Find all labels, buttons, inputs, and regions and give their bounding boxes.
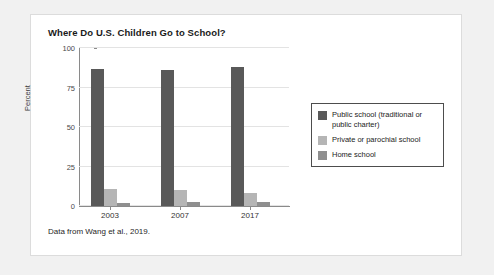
figure-card: Where Do U.S. Children Go to School? 025…: [30, 14, 462, 256]
y-tick-label: 25: [67, 162, 75, 171]
x-tick-label: 2017: [230, 211, 270, 220]
y-tick-label: 0: [71, 202, 75, 211]
x-tick-mark: [180, 207, 181, 210]
chart-title: Where Do U.S. Children Go to School?: [48, 27, 226, 38]
plot-area: [79, 48, 289, 206]
bar[interactable]: [187, 202, 200, 206]
chart-legend: Public school (traditional or public cha…: [311, 103, 444, 167]
x-tick-mark: [250, 207, 251, 210]
legend-item[interactable]: Public school (traditional or public cha…: [318, 110, 436, 130]
bar-group-2017: [231, 48, 270, 206]
legend-label: Public school (traditional or public cha…: [332, 110, 436, 130]
legend-label: Home school: [332, 150, 376, 160]
bar[interactable]: [231, 67, 244, 206]
legend-swatch-icon: [318, 111, 327, 120]
bar[interactable]: [91, 69, 104, 206]
legend-swatch-icon: [318, 136, 327, 145]
y-tick-label: 100: [62, 44, 75, 53]
x-tick-label: 2007: [160, 211, 200, 220]
y-axis-title: Percent: [23, 85, 32, 111]
bar[interactable]: [161, 70, 174, 206]
bar-group-2007: [161, 48, 200, 206]
bar[interactable]: [244, 193, 257, 206]
x-tick-mark: [110, 207, 111, 210]
bar[interactable]: [104, 189, 117, 206]
legend-item[interactable]: Home school: [318, 150, 436, 160]
y-tick-label: 50: [67, 123, 75, 132]
bar[interactable]: [257, 202, 270, 206]
legend-swatch-icon: [318, 151, 327, 160]
bar[interactable]: [117, 203, 130, 206]
bar-group-2003: [91, 48, 130, 206]
legend-label: Private or parochial school: [332, 135, 420, 145]
page-background: Where Do U.S. Children Go to School? 025…: [0, 0, 494, 275]
bar[interactable]: [174, 190, 187, 206]
y-axis-tick-labels: 0255075100: [49, 48, 75, 206]
legend-item[interactable]: Private or parochial school: [318, 135, 436, 145]
figure-caption: Data from Wang et al., 2019.: [48, 227, 150, 236]
y-tick-label: 75: [67, 83, 75, 92]
x-tick-label: 2003: [90, 211, 130, 220]
